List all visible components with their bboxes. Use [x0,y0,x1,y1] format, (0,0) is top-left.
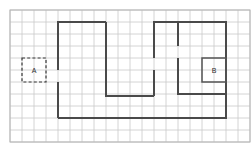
floor-plan-svg: AB [0,0,252,143]
marker-b-label: B [212,67,217,74]
marker-a-label: A [32,67,37,74]
diagram-canvas: AB [0,0,252,143]
